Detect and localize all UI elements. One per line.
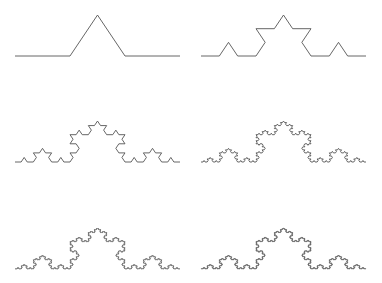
koch-curve-figure <box>0 0 382 283</box>
figure-background <box>0 0 382 283</box>
